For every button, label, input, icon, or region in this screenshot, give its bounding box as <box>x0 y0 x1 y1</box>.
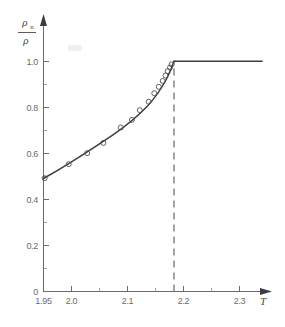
fitted-curve-rising <box>44 61 175 178</box>
y-axis-title-denominator: ρ <box>22 34 28 46</box>
data-point <box>156 84 161 89</box>
data-point <box>137 108 142 113</box>
x-axis-title: T <box>260 295 267 307</box>
y-tick-label-1-0: 1.0 <box>26 57 38 67</box>
x-axis-minor-ticks <box>100 288 212 292</box>
y-tick-label-0-6: 0.6 <box>26 149 38 159</box>
x-tick-label-2-0: 2.0 <box>66 296 78 306</box>
y-axis-arrowhead <box>40 14 47 26</box>
data-point <box>152 91 157 96</box>
x-tick-label-1-95: 1.95 <box>35 296 52 306</box>
density-ratio-plot: 0 0.2 0.4 0.6 0.8 1.0 1.95 2.0 2.1 2.2 2… <box>0 0 285 327</box>
x-tick-label-2-3: 2.3 <box>234 296 246 306</box>
y-tick-label-0-2: 0.2 <box>26 241 38 251</box>
y-axis-title: ρ n ρ <box>18 16 36 46</box>
y-tick-label-0-8: 0.8 <box>26 103 38 113</box>
data-point-markers <box>42 62 174 181</box>
y-axis-title-numerator: ρ <box>21 16 27 28</box>
x-tick-label-2-2: 2.2 <box>178 296 190 306</box>
x-axis-arrowhead <box>260 288 272 295</box>
y-tick-label-0-4: 0.4 <box>26 195 38 205</box>
x-axis-major-ticks <box>44 286 240 292</box>
y-axis-title-numerator-subscript: n <box>30 23 34 31</box>
data-point <box>160 79 165 84</box>
x-tick-label-2-1: 2.1 <box>122 296 134 306</box>
